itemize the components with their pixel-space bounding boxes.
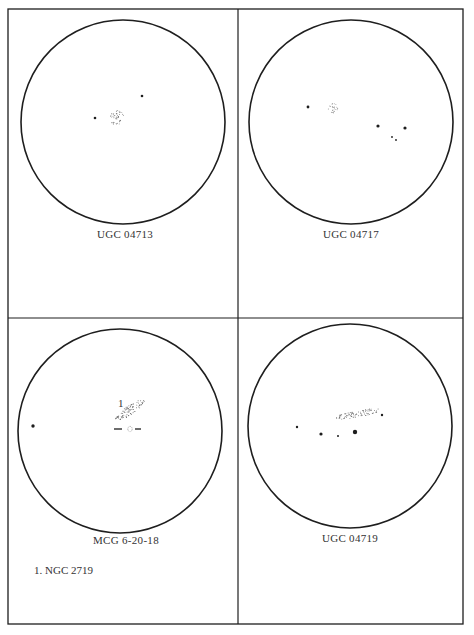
finder-chart-sheet	[0, 0, 474, 635]
star-dot	[337, 435, 339, 437]
galaxy-stipple	[328, 103, 338, 113]
outer-frame	[8, 9, 463, 624]
field-of-view-circle	[21, 20, 225, 224]
footnote-marker: 1	[118, 397, 124, 409]
star-dot	[391, 136, 393, 138]
star-dot	[319, 432, 322, 435]
star-dot	[353, 430, 357, 434]
field-of-view-circle	[248, 324, 452, 528]
object-designation-label: MCG 6-20-18	[93, 534, 159, 546]
galaxy-stipple	[336, 407, 380, 421]
star-dot	[31, 424, 34, 427]
star-dot	[141, 95, 144, 98]
star-dot	[296, 426, 298, 428]
star-dot	[403, 126, 406, 129]
field-of-view-circle	[249, 20, 453, 224]
galaxy-stipple	[110, 110, 124, 125]
star-dot	[307, 106, 310, 109]
object-designation-label: UGC 04717	[323, 228, 379, 240]
field-of-view-circle	[18, 329, 222, 533]
companion-galaxy	[128, 426, 132, 431]
star-dot	[381, 414, 383, 416]
star-dot	[395, 139, 397, 141]
footnote-text: 1. NGC 2719	[34, 564, 93, 576]
object-designation-label: UGC 04719	[322, 532, 378, 544]
star-dot	[94, 117, 97, 120]
object-designation-label: UGC 04713	[97, 228, 153, 240]
star-dot	[376, 124, 379, 127]
